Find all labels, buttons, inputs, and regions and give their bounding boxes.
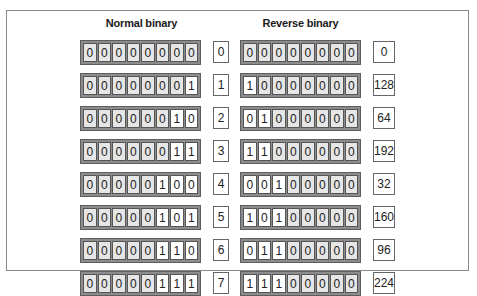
diagram-frame bbox=[6, 10, 469, 271]
bit-cell: 1 bbox=[243, 274, 257, 293]
normal-binary-row: 00000001 bbox=[80, 73, 201, 98]
bit-cell: 1 bbox=[272, 208, 286, 227]
bit-cell: 0 bbox=[98, 43, 112, 62]
bit-cell: 0 bbox=[243, 109, 257, 128]
bit-cell: 0 bbox=[316, 76, 330, 95]
bit-cell: 0 bbox=[112, 76, 126, 95]
reverse-binary-row: 11000000 bbox=[240, 139, 361, 164]
bit-cell: 0 bbox=[185, 241, 199, 260]
bit-cell: 0 bbox=[316, 109, 330, 128]
bit-cell: 0 bbox=[127, 109, 141, 128]
bit-cell: 0 bbox=[156, 43, 170, 62]
reverse-binary-row: 11100000 bbox=[240, 271, 361, 296]
bit-cell: 1 bbox=[185, 142, 199, 161]
bit-cell: 0 bbox=[185, 43, 199, 62]
bit-cell: 1 bbox=[272, 274, 286, 293]
reverse-decimal-value: 160 bbox=[373, 206, 395, 228]
bit-cell: 0 bbox=[287, 43, 301, 62]
normal-binary-row: 00000010 bbox=[80, 106, 201, 131]
bit-cell: 0 bbox=[301, 76, 315, 95]
bit-cell: 0 bbox=[156, 142, 170, 161]
bit-cell: 0 bbox=[98, 274, 112, 293]
bit-cell: 0 bbox=[156, 109, 170, 128]
bit-cell: 0 bbox=[345, 142, 359, 161]
normal-decimal-value: 2 bbox=[213, 107, 229, 129]
bit-cell: 0 bbox=[170, 76, 184, 95]
bit-cell: 0 bbox=[287, 208, 301, 227]
normal-decimal-value: 6 bbox=[213, 239, 229, 261]
bit-cell: 0 bbox=[287, 274, 301, 293]
bit-cell: 1 bbox=[156, 274, 170, 293]
bit-cell: 0 bbox=[98, 175, 112, 194]
bit-cell: 0 bbox=[185, 175, 199, 194]
bit-cell: 0 bbox=[330, 175, 344, 194]
reverse-binary-heading: Reverse binary bbox=[240, 17, 361, 29]
bit-cell: 0 bbox=[83, 175, 97, 194]
bit-cell: 0 bbox=[272, 76, 286, 95]
bit-cell: 1 bbox=[156, 175, 170, 194]
bit-cell: 0 bbox=[258, 208, 272, 227]
bit-cell: 0 bbox=[330, 43, 344, 62]
bit-cell: 0 bbox=[170, 43, 184, 62]
bit-cell: 0 bbox=[272, 142, 286, 161]
reverse-decimal-value: 32 bbox=[373, 173, 395, 195]
bit-cell: 0 bbox=[83, 274, 97, 293]
bit-cell: 0 bbox=[345, 241, 359, 260]
reverse-decimal-value: 64 bbox=[373, 107, 395, 129]
bit-cell: 0 bbox=[287, 241, 301, 260]
bit-cell: 0 bbox=[98, 208, 112, 227]
bit-cell: 1 bbox=[258, 142, 272, 161]
reverse-decimal-value: 96 bbox=[373, 239, 395, 261]
bit-cell: 0 bbox=[345, 274, 359, 293]
bit-cell: 0 bbox=[98, 142, 112, 161]
normal-decimal-value: 7 bbox=[213, 272, 229, 294]
reverse-decimal-value: 0 bbox=[373, 41, 395, 63]
reverse-binary-row: 01100000 bbox=[240, 238, 361, 263]
bit-cell: 0 bbox=[185, 109, 199, 128]
bit-cell: 0 bbox=[243, 43, 257, 62]
bit-cell: 0 bbox=[330, 109, 344, 128]
reverse-binary-row: 10100000 bbox=[240, 205, 361, 230]
bit-cell: 0 bbox=[156, 76, 170, 95]
bit-cell: 1 bbox=[258, 241, 272, 260]
bit-cell: 0 bbox=[301, 43, 315, 62]
bit-cell: 0 bbox=[345, 208, 359, 227]
bit-cell: 1 bbox=[185, 76, 199, 95]
bit-cell: 1 bbox=[258, 109, 272, 128]
bit-cell: 0 bbox=[243, 175, 257, 194]
bit-cell: 0 bbox=[98, 76, 112, 95]
bit-cell: 1 bbox=[272, 175, 286, 194]
normal-decimal-value: 1 bbox=[213, 74, 229, 96]
bit-cell: 0 bbox=[170, 175, 184, 194]
bit-cell: 0 bbox=[98, 109, 112, 128]
bit-cell: 0 bbox=[330, 241, 344, 260]
bit-cell: 1 bbox=[185, 208, 199, 227]
normal-decimal-value: 5 bbox=[213, 206, 229, 228]
bit-cell: 0 bbox=[330, 208, 344, 227]
bit-cell: 0 bbox=[258, 175, 272, 194]
bit-cell: 0 bbox=[112, 43, 126, 62]
reverse-binary-row: 01000000 bbox=[240, 106, 361, 131]
bit-cell: 0 bbox=[316, 142, 330, 161]
bit-cell: 0 bbox=[141, 274, 155, 293]
bit-cell: 1 bbox=[243, 76, 257, 95]
normal-binary-row: 00000111 bbox=[80, 271, 201, 296]
bit-cell: 1 bbox=[243, 142, 257, 161]
bit-cell: 1 bbox=[156, 241, 170, 260]
bit-cell: 0 bbox=[287, 175, 301, 194]
bit-cell: 0 bbox=[141, 76, 155, 95]
normal-decimal-value: 3 bbox=[213, 140, 229, 162]
bit-cell: 0 bbox=[258, 76, 272, 95]
bit-cell: 0 bbox=[316, 43, 330, 62]
bit-cell: 0 bbox=[272, 43, 286, 62]
normal-binary-row: 00000011 bbox=[80, 139, 201, 164]
bit-cell: 0 bbox=[112, 274, 126, 293]
bit-cell: 0 bbox=[258, 43, 272, 62]
reverse-decimal-value: 128 bbox=[373, 74, 395, 96]
bit-cell: 0 bbox=[83, 241, 97, 260]
bit-cell: 0 bbox=[316, 175, 330, 194]
bit-cell: 0 bbox=[301, 208, 315, 227]
normal-binary-row: 00000000 bbox=[80, 40, 201, 65]
normal-decimal-value: 4 bbox=[213, 173, 229, 195]
bit-cell: 0 bbox=[287, 109, 301, 128]
